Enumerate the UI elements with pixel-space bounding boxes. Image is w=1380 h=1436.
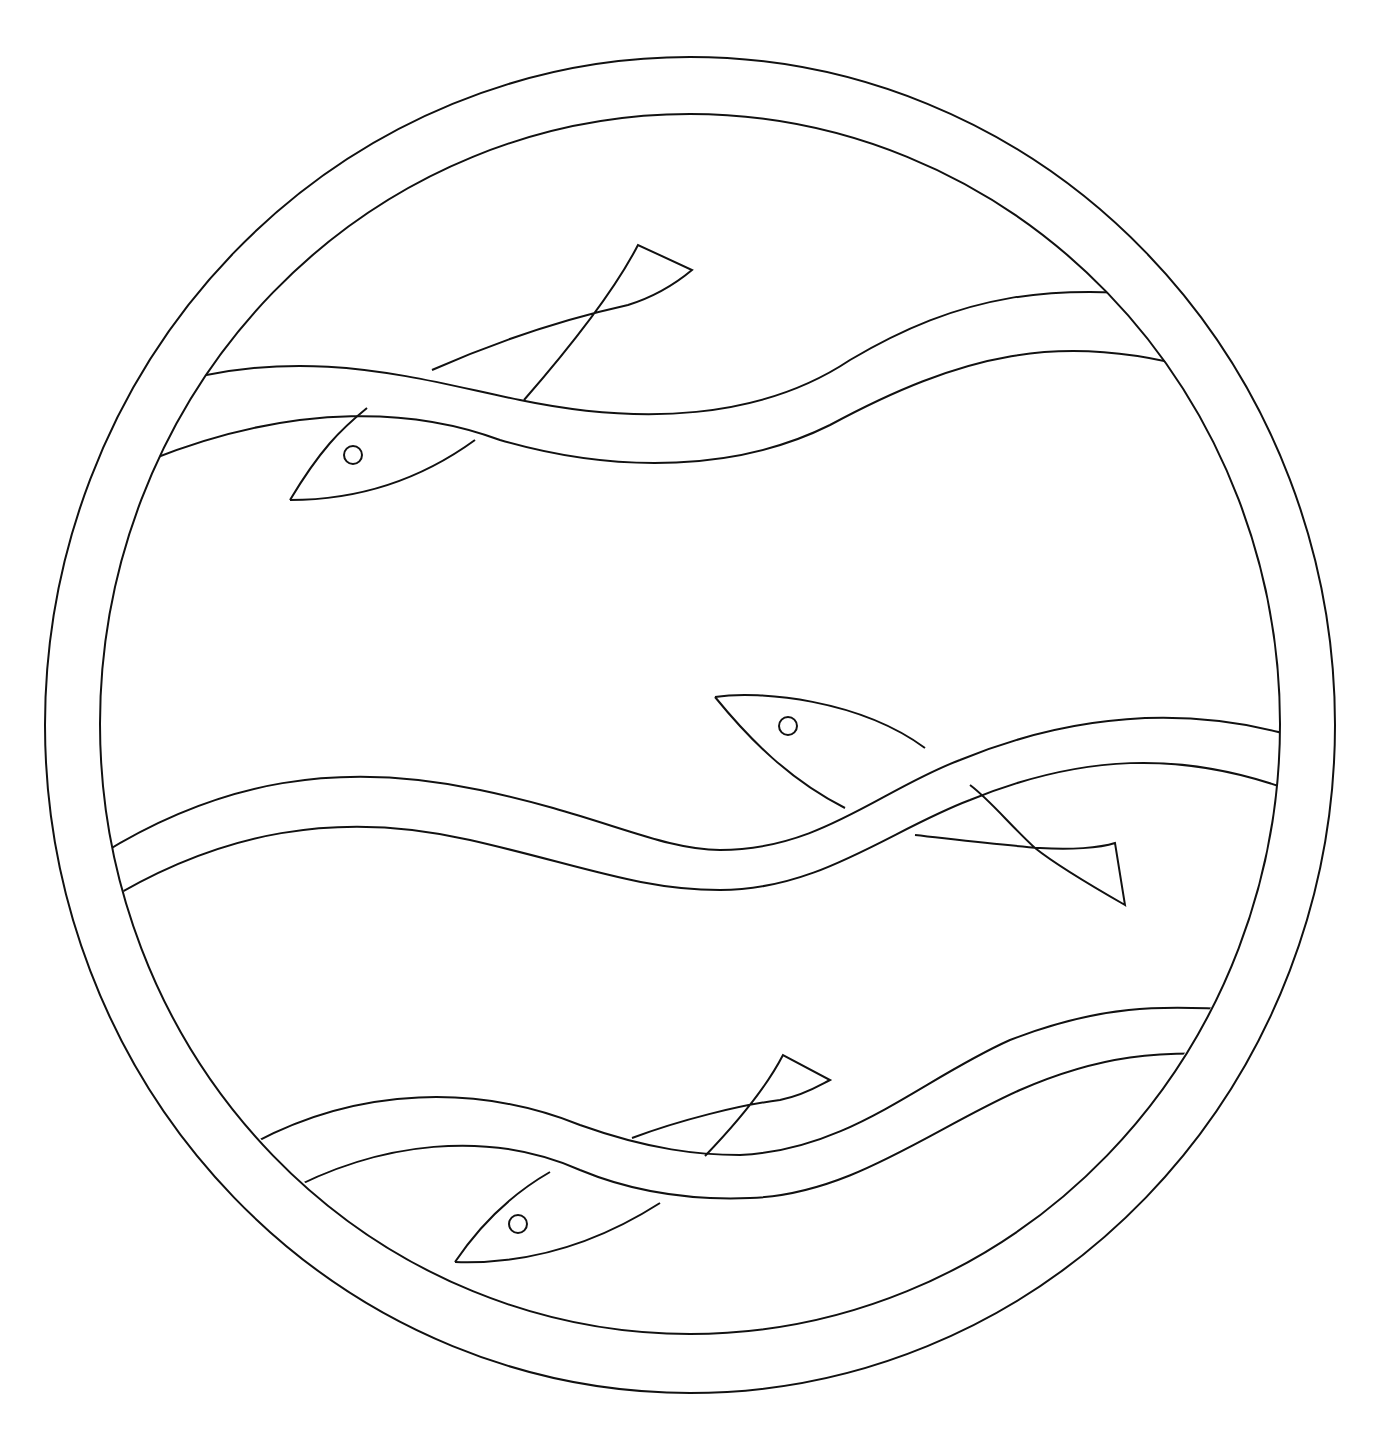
- fish-middle: [715, 695, 1125, 905]
- outer-ring: [45, 57, 1335, 1393]
- coloring-artwork: [0, 0, 1380, 1436]
- inner-ring: [100, 114, 1280, 1334]
- top-wave-band: [150, 292, 1200, 463]
- middle-wave-band: [100, 718, 1290, 905]
- fish-bottom: [455, 1055, 830, 1262]
